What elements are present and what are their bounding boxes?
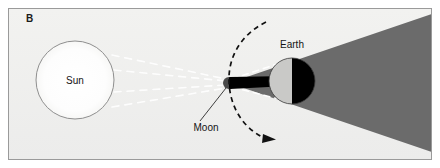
eclipse-diagram-canvas: B Sun Moon Earth [0,0,440,168]
panel-label: B [26,13,33,24]
earth-label: Earth [280,39,304,50]
sun-label: Sun [66,75,84,86]
earth-body [269,58,315,104]
eclipse-figure: B Sun Moon Earth [0,0,440,168]
moon-label: Moon [193,122,218,133]
